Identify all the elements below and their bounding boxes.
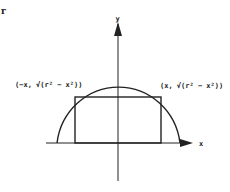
x-axis-label: x <box>199 140 204 148</box>
y-axis-arrow-icon <box>114 22 122 36</box>
semicircle-diagram: r y x (−x, √(r² − x²)) (x, √(r² − x²)) <box>0 0 230 192</box>
left-point-label: (−x, √(r² − x²)) <box>15 81 82 89</box>
right-point-label: (x, √(r² − x²)) <box>160 82 223 90</box>
x-axis-arrow-icon <box>180 139 193 147</box>
corner-label: r <box>1 6 6 16</box>
y-axis-label: y <box>116 15 121 23</box>
